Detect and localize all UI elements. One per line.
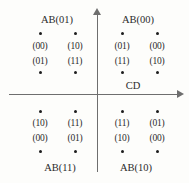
constellation-point [74, 150, 77, 153]
vertical-axis-arrow-icon [93, 8, 101, 15]
constellation-point [156, 110, 159, 113]
point-bits-upper: (01) [114, 41, 129, 51]
constellation-point [74, 71, 77, 74]
constellation-point [121, 71, 124, 74]
point-bits-upper: (00) [149, 41, 164, 51]
constellation-point [39, 32, 42, 35]
constellation-point [74, 32, 77, 35]
point-bits-upper: (00) [32, 41, 47, 51]
point-bits-upper: (11) [68, 118, 83, 128]
horizontal-axis-arrow-icon [177, 90, 184, 98]
constellation-point [156, 71, 159, 74]
constellation-point [156, 150, 159, 153]
point-bits-lower: (01) [67, 133, 82, 143]
constellation-point [39, 71, 42, 74]
point-bits-lower: (00) [149, 133, 164, 143]
quadrant-label-top-left: AB(01) [41, 14, 73, 25]
point-bits-lower: (11) [68, 56, 83, 66]
point-bits-upper: (10) [67, 41, 82, 51]
point-bits-upper: (01) [149, 118, 164, 128]
point-bits-lower: (10) [114, 133, 129, 143]
constellation-diagram: (00)(01)(10)(11)AB(01)(01)(11)(00)(10)AB… [0, 0, 189, 183]
constellation-point [39, 150, 42, 153]
vertical-axis [97, 11, 98, 172]
point-bits-lower: (01) [32, 56, 47, 66]
point-bits-lower: (00) [32, 133, 47, 143]
quadrant-label-bottom-right: AB(10) [120, 162, 152, 173]
quadrant-label-top-right: AB(00) [122, 14, 154, 25]
point-bits-lower: (10) [149, 56, 164, 66]
point-bits-upper: (11) [115, 118, 130, 128]
constellation-point [121, 110, 124, 113]
quadrant-label-bottom-left: AB(11) [44, 162, 76, 173]
constellation-point [74, 110, 77, 113]
constellation-point [121, 32, 124, 35]
constellation-point [39, 110, 42, 113]
constellation-point [156, 32, 159, 35]
constellation-point [121, 150, 124, 153]
axis-label-cd: CD [126, 80, 141, 91]
point-bits-lower: (11) [115, 56, 130, 66]
point-bits-upper: (10) [32, 118, 47, 128]
horizontal-axis [9, 94, 181, 95]
